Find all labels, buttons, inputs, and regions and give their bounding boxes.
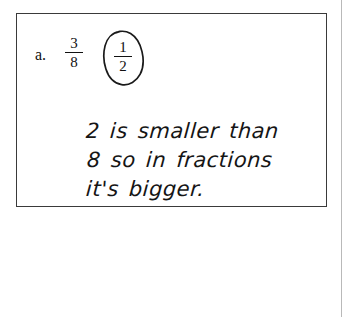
fraction-one-half[interactable]: 1 2 <box>114 39 132 74</box>
student-handwritten-answer: 2 is smaller than 8 so in fractions it's… <box>85 117 325 204</box>
scan-artifact-line <box>341 0 342 317</box>
handwritten-line-3: it's bigger. <box>85 175 327 204</box>
fraction-bar <box>65 52 83 53</box>
fraction-denominator: 8 <box>65 54 83 70</box>
fraction-denominator: 2 <box>114 58 132 74</box>
fraction-three-eighths[interactable]: 3 8 <box>65 35 83 70</box>
problem-row: a. 3 8 1 2 <box>17 14 326 86</box>
fraction-numerator: 1 <box>114 39 132 55</box>
answer-box: a. 3 8 1 2 2 is smaller than 8 so in fra… <box>16 13 327 207</box>
fraction-bar <box>114 56 132 57</box>
scanned-worksheet-page: a. 3 8 1 2 2 is smaller than 8 so in fra… <box>0 0 351 317</box>
handwritten-line-2: 8 so in fractions <box>86 146 327 175</box>
handwritten-line-1: 2 is smaller than <box>85 117 327 146</box>
problem-item-letter: a. <box>35 47 46 63</box>
fraction-numerator: 3 <box>65 35 83 51</box>
